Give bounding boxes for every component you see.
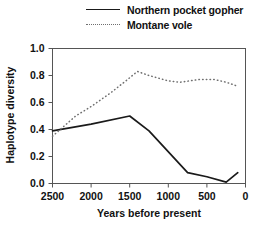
plot-frame — [53, 49, 246, 184]
data-series-layer — [53, 71, 238, 182]
x-axis-title: Years before present — [97, 207, 201, 219]
x-tick-label: 2500 — [41, 190, 65, 202]
x-tick-label: 0 — [243, 190, 249, 202]
x-axis-tick-labels: 25002000150010005000 — [41, 190, 249, 202]
y-axis-title: Haplotype diversity — [4, 66, 16, 163]
y-tick-label: 0.4 — [30, 123, 45, 135]
y-axis-tick-labels: 0.00.20.40.60.81.0 — [30, 42, 45, 189]
x-tick-label: 2000 — [79, 190, 103, 202]
x-tick-label: 1500 — [118, 190, 142, 202]
y-tick-label: 0.6 — [30, 96, 45, 108]
x-tick-label: 1000 — [157, 190, 181, 202]
x-axis-ticks — [53, 184, 246, 188]
series-line-northern-pocket-gopher — [53, 116, 238, 182]
chart-svg: 25002000150010005000 0.00.20.40.60.81.0 … — [0, 0, 262, 230]
y-tick-label: 0.0 — [30, 177, 45, 189]
y-tick-label: 0.2 — [30, 150, 45, 162]
x-tick-label: 500 — [198, 190, 216, 202]
y-axis-ticks — [49, 49, 53, 184]
plot-area: 25002000150010005000 0.00.20.40.60.81.0 … — [0, 0, 262, 230]
chart-page: Northern pocket gopher Montane vole 2500… — [0, 0, 262, 230]
y-tick-label: 0.8 — [30, 69, 45, 81]
y-tick-label: 1.0 — [30, 42, 45, 54]
